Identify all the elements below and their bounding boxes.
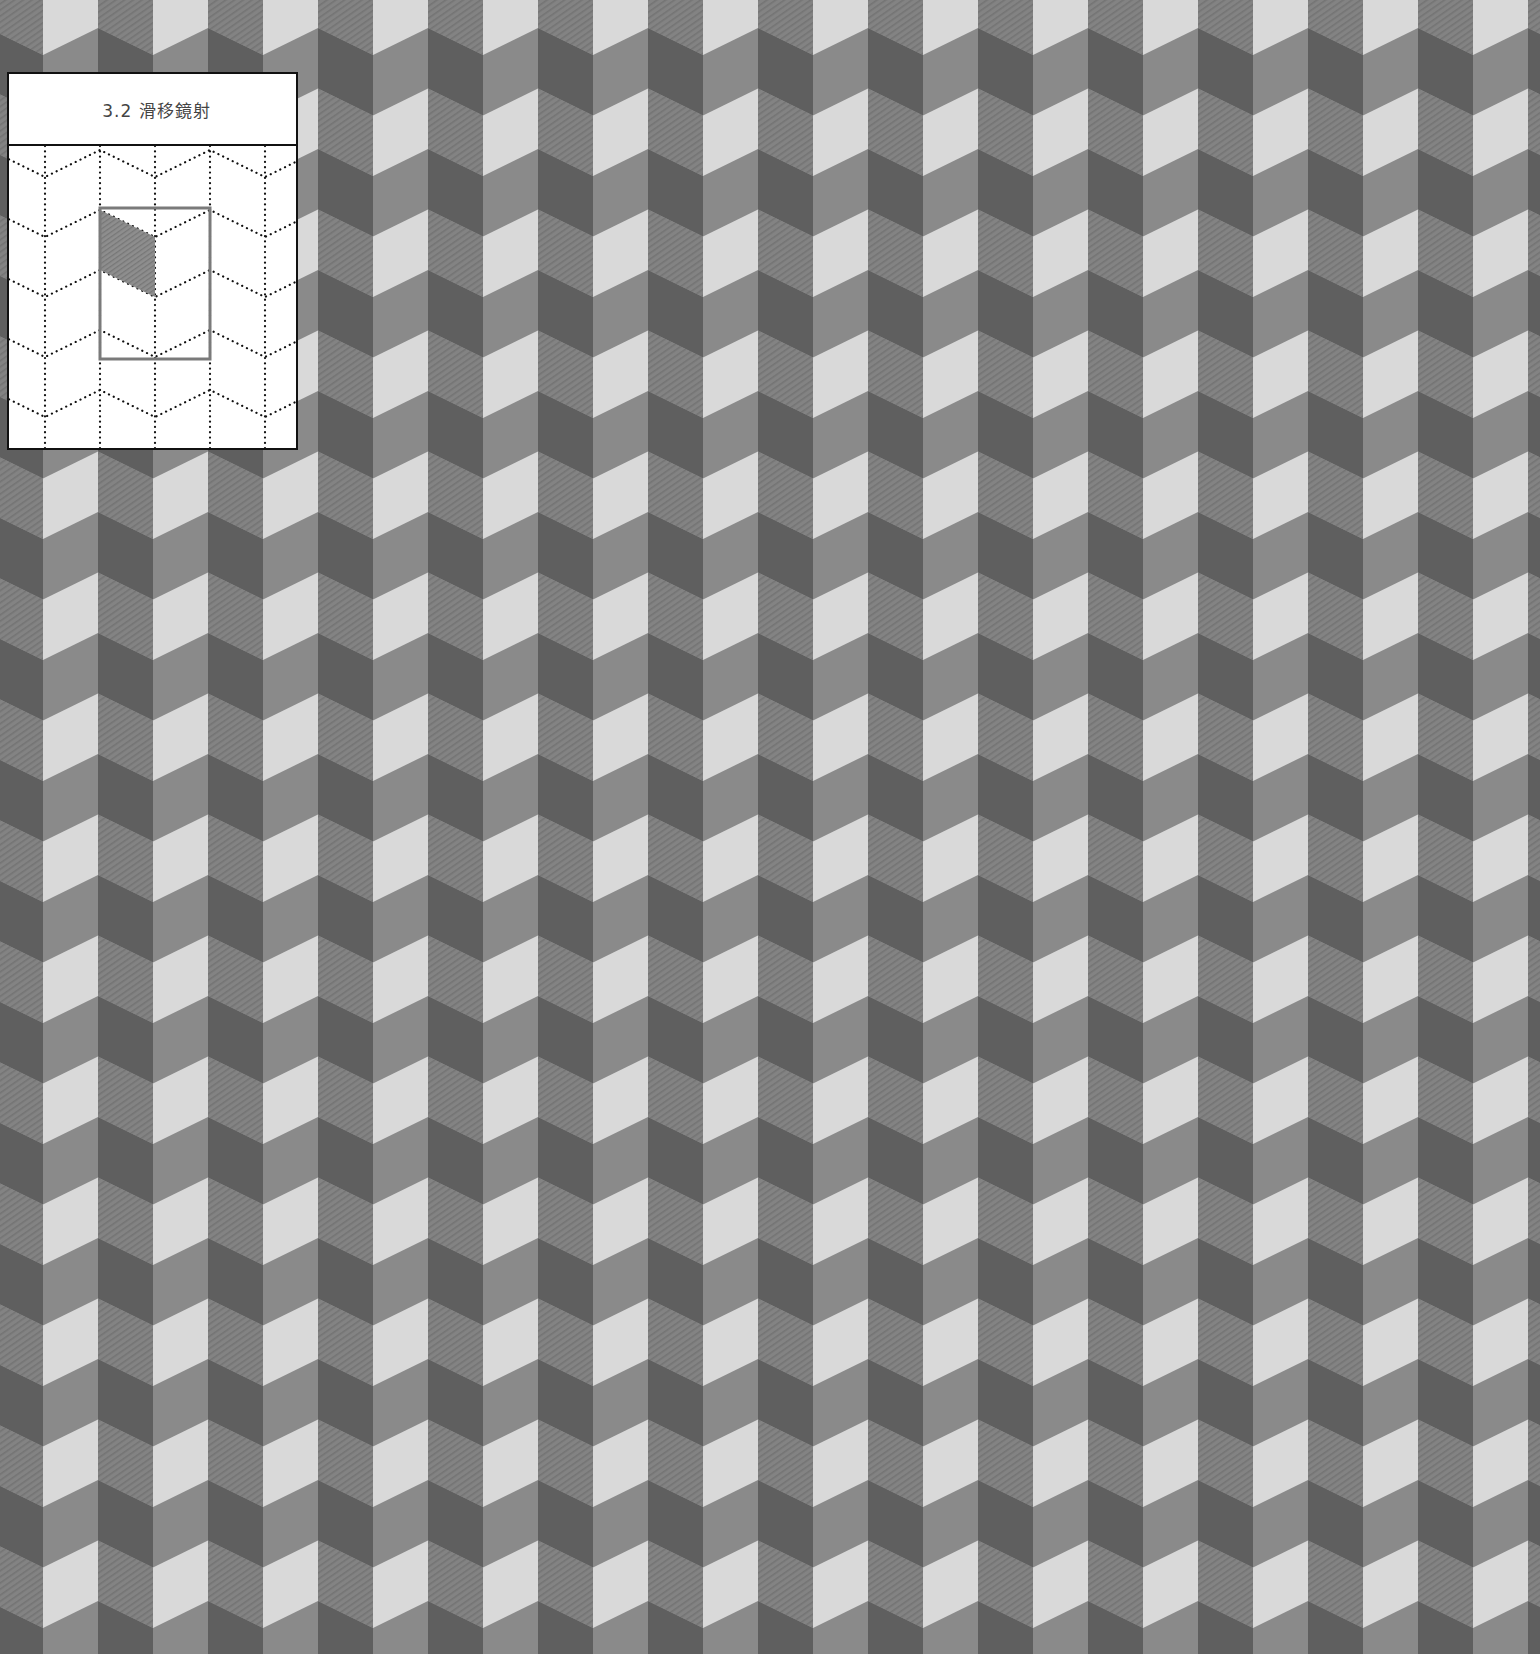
- dotted-grid: [9, 146, 296, 448]
- glide-reflection-diagram: [9, 146, 296, 448]
- figure-caption-header: 3.2 滑移鏡射: [9, 74, 296, 146]
- figure-title: 3.2 滑移鏡射: [102, 97, 210, 122]
- figure-inset-panel: 3.2 滑移鏡射: [7, 72, 298, 450]
